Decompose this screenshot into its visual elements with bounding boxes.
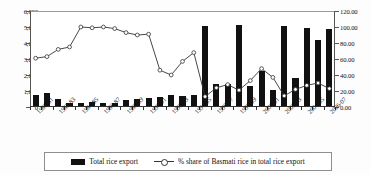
line-marker: [169, 73, 173, 77]
y-axis-right-tick-label: 20.00: [340, 88, 354, 95]
line-marker: [56, 48, 60, 52]
y-axis-right-tick: [335, 75, 339, 76]
line-marker: [294, 88, 298, 92]
x-axis-labels: 1980-811982-831984-851986-871988-891990-…: [30, 108, 335, 146]
line-marker: [135, 33, 139, 37]
line-marker: [34, 56, 38, 60]
line-marker-swatch-icon: [154, 158, 174, 165]
line-marker: [79, 25, 83, 29]
line-marker: [192, 51, 196, 55]
y-axis-right-tick: [335, 11, 339, 12]
line-marker: [45, 55, 49, 59]
legend-label-basmati-share: % share of Basmati rice in total rice ex…: [178, 157, 305, 166]
y-axis-right-tick-label: 60.00: [340, 56, 354, 63]
plot-area: [30, 11, 335, 107]
y-axis-right-tick: [335, 27, 339, 28]
line-marker: [68, 45, 72, 49]
line-marker: [102, 25, 106, 29]
line-marker: [305, 84, 309, 88]
y-axis-right-tick-label: 120.00: [340, 8, 358, 15]
line-marker: [226, 83, 230, 87]
y-axis-right-tick-label: 40.00: [340, 72, 354, 79]
line-series-basmati-share: [30, 11, 335, 107]
y-axis-right-tick: [335, 59, 339, 60]
y-axis-right-tick-label: 80.00: [340, 40, 354, 47]
y-axis-right-tick: [335, 91, 339, 92]
line-marker: [327, 87, 331, 91]
legend-item-total-rice-export: Total rice export: [71, 157, 138, 166]
line-marker: [271, 76, 275, 80]
line-marker: [181, 60, 185, 64]
legend-item-basmati-share: % share of Basmati rice in total rice ex…: [154, 157, 305, 166]
line-marker: [248, 79, 252, 83]
line-marker: [316, 81, 320, 85]
bar-swatch-icon: [71, 159, 85, 165]
line-marker: [147, 32, 151, 36]
line-marker: [124, 31, 128, 35]
line-marker: [237, 88, 241, 92]
line-marker: [158, 68, 162, 72]
line-marker: [282, 94, 286, 98]
line-marker: [113, 27, 117, 31]
line-marker: [214, 86, 218, 90]
y-axis-right-tick-label: 100.00: [340, 24, 358, 31]
legend-label-total-rice-export: Total rice export: [89, 157, 138, 166]
chart-figure: 01,0002,0003,0004,0005,0006,000 0.0020.0…: [0, 0, 371, 175]
line-marker: [260, 67, 264, 71]
chart-legend: Total rice export % share of Basmati ric…: [44, 152, 332, 171]
y-axis-right-tick: [335, 43, 339, 44]
line-marker: [90, 26, 94, 30]
